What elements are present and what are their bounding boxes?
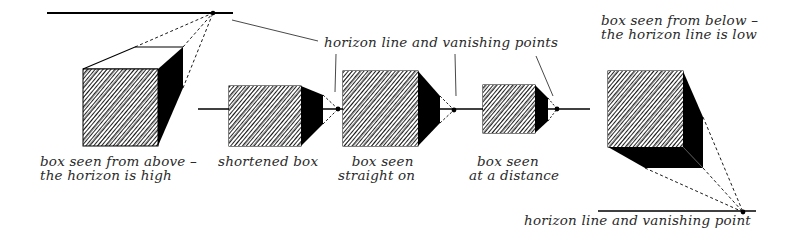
label-box-below: box seen from below – the horizon line i… [601,13,758,41]
label-box-straight-line2: straight on [338,168,415,182]
label-box-below-line1: box seen from below – [601,13,758,27]
label-box-distance-line2: at a distance [469,168,559,182]
box-straight-on-group [343,71,456,146]
label-box-below-line2: the horizon line is low [601,27,758,41]
label-shortened-box: shortened box [218,154,318,168]
box-above-side-face [158,47,183,146]
label-horizon-point-text: horizon line and vanishing point [524,213,751,227]
shortened-box-group [229,86,340,146]
box-straight-side-face [418,71,440,146]
label-box-above-line2: the horizon is high [40,168,197,182]
vanishing-point [452,108,457,113]
label-horizon-points: horizon line and vanishing points [324,35,558,49]
label-box-straight-line1: box seen [338,154,415,168]
label-box-distance-line1: box seen [469,154,559,168]
box-distance-group [483,85,559,133]
shortened-box-side-face [301,86,323,146]
perspective-diagram: box seen from above – the horizon is hig… [0,0,786,251]
label-horizon-point: horizon line and vanishing point [524,213,751,227]
label-horizon-points-text: horizon line and vanishing points [324,35,558,49]
label-box-above-line1: box seen from above – [40,154,197,168]
construction-line [703,168,743,212]
label-box-distance: box seen at a distance [469,154,559,182]
construction-line [703,117,743,212]
box-distance-side-face [535,85,548,133]
construction-line [645,168,743,212]
label-box-above: box seen from above – the horizon is hig… [40,154,197,182]
box-above-group [47,11,233,146]
box-below-group [598,71,756,214]
label-box-straight: box seen straight on [338,154,415,182]
construction-line [183,13,213,47]
vanishing-point [555,107,560,112]
vanishing-point [336,107,341,112]
label-shortened-box-text: shortened box [218,154,318,168]
